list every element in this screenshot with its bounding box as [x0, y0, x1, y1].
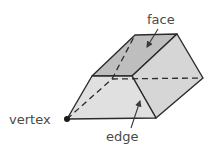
- vertex-dot: [64, 116, 70, 122]
- edge-label: edge: [106, 129, 139, 144]
- prism-diagram: face vertex edge: [0, 0, 220, 159]
- face-label: face: [147, 12, 175, 27]
- vertex-label: vertex: [9, 112, 51, 127]
